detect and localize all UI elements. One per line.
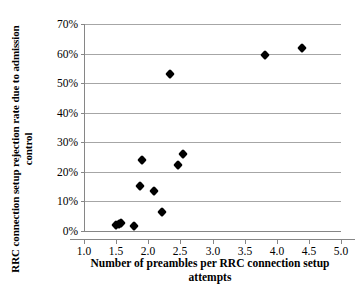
y-tick-mark [81,231,85,232]
x-axis-tick-label: 1.5 [109,245,123,257]
data-point [260,50,270,60]
x-axis-tick-label: 3.0 [206,245,220,257]
y-axis-tick-label: 10% [57,195,78,207]
data-point [130,221,140,231]
x-axis-tick-label: 1.0 [77,245,91,257]
x-tick-mark [148,239,149,244]
gridline-y-40% [85,113,341,114]
data-point [178,149,188,159]
y-tick-mark [81,54,85,55]
gridline-y-60% [85,54,341,55]
gridline-y-10% [85,201,341,202]
x-tick-mark [341,239,342,244]
x-axis-tick-label: 5.0 [334,245,348,257]
x-axis-tick-label: 4.0 [270,245,284,257]
data-point [149,186,159,196]
y-tick-mark [81,113,85,114]
plot-area: 0%10%20%30%40%50%60%70% [84,24,341,231]
x-tick-mark [309,239,310,244]
x-axis-tick-label: 2.5 [173,245,187,257]
data-point [173,160,183,170]
x-tick-mark [84,239,85,244]
gridline-y-70% [85,24,341,25]
y-axis-tick-label: 0% [63,225,78,237]
gridline-y-20% [85,172,341,173]
x-axis-tick-label: 4.5 [302,245,316,257]
x-axis-tick-label: 3.5 [238,245,252,257]
y-axis-tick-label: 50% [57,77,78,89]
y-axis-tick-label: 60% [57,48,78,60]
x-axis-tick-label: 2.0 [141,245,155,257]
gridline-y-30% [85,142,341,143]
y-axis-tick-label: 20% [57,166,78,178]
x-tick-mark [277,239,278,244]
x-axis-title: Number of preambles per RRC connection s… [70,256,350,284]
data-point [135,181,145,191]
gridline-y-50% [85,83,341,84]
x-tick-mark [180,239,181,244]
data-point [165,69,175,79]
data-point [297,43,307,53]
x-tick-mark [213,239,214,244]
scatter-chart-figure: RRC connection setup rejection rate due … [0,0,360,298]
x-tick-mark [116,239,117,244]
y-tick-mark [81,201,85,202]
y-axis-tick-label: 70% [57,18,78,30]
y-axis-tick-label: 40% [57,107,78,119]
data-point [137,155,147,165]
gridline-y-0% [85,231,341,232]
y-tick-mark [81,24,85,25]
y-tick-mark [81,83,85,84]
y-tick-mark [81,142,85,143]
y-tick-mark [81,172,85,173]
y-axis-tick-label: 30% [57,136,78,148]
x-tick-mark [245,239,246,244]
y-axis-title: RRC connection setup rejection rate due … [0,24,44,274]
data-point [157,207,167,217]
